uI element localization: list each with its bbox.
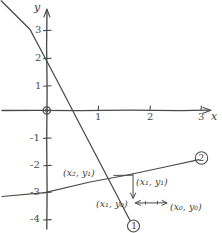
point-label-x2-y1: (x₂, y₁)	[63, 168, 95, 178]
y-axis-label: y	[34, 2, 40, 13]
x-axis-label: x	[211, 111, 217, 122]
line-2-badge-label: 2	[199, 154, 205, 163]
y-tick-label-2: 2	[35, 53, 41, 63]
y-tick-label-3: 3	[35, 25, 41, 35]
y-tick-label-1: 1	[35, 81, 41, 91]
point-label-x0-y0: (x₀, y₀)	[170, 202, 202, 212]
line-badges-group	[128, 152, 208, 232]
y-tick-label-neg-2: -2	[30, 160, 40, 170]
x-tick-label-2: 2	[147, 112, 153, 122]
line-1-badge-label: 1	[131, 222, 137, 231]
point-label-x1-y1: (x₁, y₁)	[136, 177, 168, 187]
y-tick-label-neg-4: -4	[30, 214, 40, 224]
y-axis-line	[47, 10, 48, 229]
x-tick-label-3: 3	[198, 112, 204, 122]
x-tick-label-1: 1	[95, 112, 101, 122]
coordinate-plane-figure: y x 1 2 3 1 2 3 -1 -2 -3 -4 (x₂, y₁) (x₁…	[0, 0, 222, 233]
y-tick-label-neg-3: -3	[30, 187, 40, 197]
y-tick-label-neg-1: -1	[30, 133, 40, 143]
point-label-x1-y0: (x₁, y₀)	[96, 199, 128, 209]
